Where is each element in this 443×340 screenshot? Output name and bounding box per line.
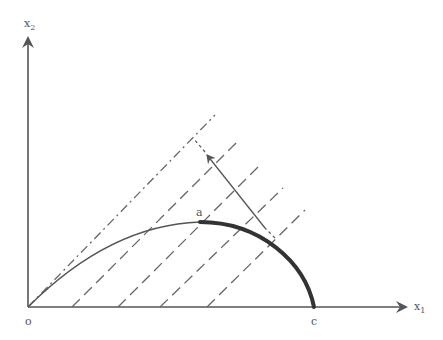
dash-dot-ray [28,115,215,307]
dashed-line-2 [118,165,260,307]
diagram-canvas: x2 x1 o a c [0,0,443,340]
point-a-label: a [196,206,203,219]
origin-label: o [25,315,32,328]
y-axis-label: x2 [24,17,35,32]
x-axis-label: x1 [414,300,425,315]
dashed-line-3 [160,188,283,307]
point-c-label: c [311,315,317,328]
y-axis [22,36,34,307]
dashed-iso-lines [72,142,305,307]
x-axis [28,301,408,313]
curve-bold-segment [200,222,314,307]
